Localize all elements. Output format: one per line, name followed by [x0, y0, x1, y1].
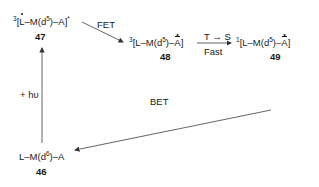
- acceptor-part: )–A]: [50, 16, 67, 27]
- bond: )–: [273, 37, 281, 48]
- ligand-metal-part: [L–M(d: [240, 37, 270, 48]
- metal-part: –M(d: [25, 16, 47, 27]
- isc-top-label: T → S: [204, 32, 231, 42]
- acceptor-part: )–A: [50, 151, 65, 162]
- compound-number-48: 48: [160, 52, 171, 62]
- species-49-label: 1[L–M(d5)–A]: [236, 38, 290, 48]
- ligand-metal-part: [L–M(d: [133, 37, 163, 48]
- photoexcitation-label: + hυ: [20, 90, 39, 100]
- compound-number-47: 47: [35, 32, 46, 42]
- spin-multiplicity: 3: [13, 15, 17, 22]
- species-46-label: L–M(d6)–A: [19, 152, 64, 162]
- bet-label: BET: [150, 97, 168, 107]
- fet-label: FET: [97, 20, 115, 30]
- species-48-label: 3[L–M(d5)–A]: [129, 38, 183, 48]
- excited-star: *: [67, 15, 70, 22]
- isc-bottom-label: Fast: [204, 47, 222, 57]
- bond: )–: [166, 37, 174, 48]
- ligand-metal-part: L–M(d: [19, 151, 46, 162]
- compound-number-49: 49: [270, 52, 281, 62]
- bracket: ]: [288, 37, 291, 48]
- compound-number-46: 46: [36, 167, 47, 177]
- bracket: ]: [181, 37, 184, 48]
- acceptor-radical-anion: A: [281, 38, 287, 48]
- bet-arrow: [75, 110, 271, 150]
- species-47-label: 3[L–M(d5)–A]*: [13, 17, 70, 27]
- acceptor-radical-anion: A: [174, 38, 180, 48]
- ligand-radical: L: [19, 17, 24, 27]
